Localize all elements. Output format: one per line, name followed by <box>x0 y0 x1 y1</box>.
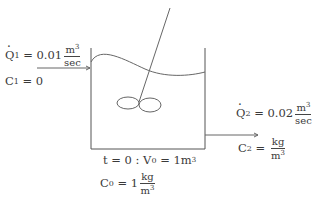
initial-volume-label: t = 0 : V0 = 1m3 <box>103 155 196 167</box>
outlet-flow-label: Q2 = 0.02 m3 sec <box>236 102 312 126</box>
stirrer-shaft <box>139 8 170 102</box>
outlet-concentration-label: C2 = kg m3 <box>238 137 285 161</box>
inlet-flow-label: Q1 = 0.01 m3 sec <box>5 44 81 68</box>
stirrer-blade-right <box>139 98 161 112</box>
liquid-surface <box>91 54 205 75</box>
outlet-concentration-unit: kg m3 <box>271 137 285 161</box>
stirrer-blade-left <box>117 97 139 109</box>
inlet-concentration-label: C1 = 0 <box>5 76 43 88</box>
tank-drawing <box>0 0 316 202</box>
initial-concentration-label: C0 = 1 kg m3 <box>100 172 155 196</box>
mixing-tank-diagram: Q1 = 0.01 m3 sec C1 = 0 Q2 = 0.02 m3 sec… <box>0 0 316 202</box>
initial-concentration-unit: kg m3 <box>140 172 154 196</box>
outlet-flow-unit: m3 sec <box>295 102 312 126</box>
inlet-flow-unit: m3 sec <box>64 44 81 68</box>
